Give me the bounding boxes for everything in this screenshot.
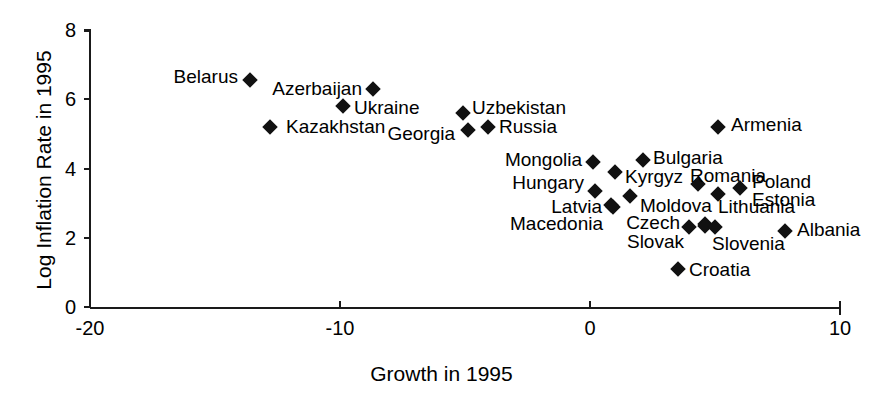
data-point-label: Belarus xyxy=(174,67,238,86)
data-point-label: Mongolia xyxy=(505,150,582,169)
data-point-label: Ukraine xyxy=(354,98,419,117)
data-point-marker[interactable] xyxy=(607,164,623,180)
data-point-marker[interactable] xyxy=(335,98,351,114)
data-point-marker[interactable] xyxy=(670,261,686,277)
data-point-label: Russia xyxy=(499,117,557,136)
data-point-marker[interactable] xyxy=(460,123,476,139)
data-point-label: Slovenia xyxy=(712,234,785,253)
data-point-marker[interactable] xyxy=(622,188,638,204)
data-point-marker[interactable] xyxy=(455,105,471,121)
data-point-label: Kyrgyz xyxy=(625,167,683,186)
plot-area: BelarusAzerbaijanUkraineKazakhstanUzbeki… xyxy=(0,0,883,405)
data-point-label: Kazakhstan xyxy=(286,117,385,136)
data-point-label: Hungary xyxy=(512,173,584,192)
data-point-label: Albania xyxy=(797,220,860,239)
data-point-label: Armenia xyxy=(731,115,802,134)
data-point-label: Croatia xyxy=(689,260,750,279)
y-axis-title: Log Inflation Rate in 1995 xyxy=(32,20,56,320)
data-point-marker[interactable] xyxy=(585,154,601,170)
data-point-label: Macedonia xyxy=(510,214,603,233)
data-point-label: Lithuania xyxy=(718,197,795,216)
data-point-marker[interactable] xyxy=(480,119,496,135)
data-point-marker[interactable] xyxy=(262,119,278,135)
data-point-label: Czech xyxy=(626,213,680,232)
data-point-label: Georgia xyxy=(387,124,455,143)
data-point-label: Uzbekistan xyxy=(472,98,566,117)
x-axis-title: Growth in 1995 xyxy=(0,362,883,386)
data-point-marker[interactable] xyxy=(365,81,381,97)
scatter-plot-figure: -20-10010 02468 BelarusAzerbaijanUkraine… xyxy=(0,0,883,405)
data-point-marker[interactable] xyxy=(242,72,258,88)
data-point-label: Azerbaijan xyxy=(272,79,362,98)
data-point-label: Slovak xyxy=(627,232,684,251)
data-point-marker[interactable] xyxy=(710,119,726,135)
